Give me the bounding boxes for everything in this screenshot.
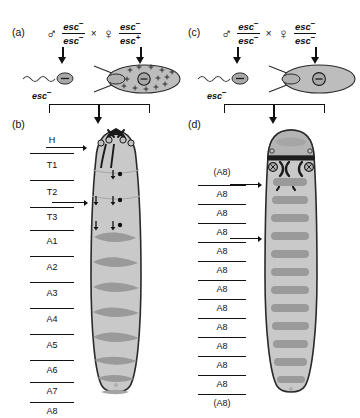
segment-label-d-2: A8 bbox=[198, 205, 246, 224]
cross-a: ♂ esc− esc− × ♀ esc− esc+ bbox=[46, 20, 141, 47]
segment-label-a3: A3 bbox=[30, 283, 74, 309]
larva-b bbox=[84, 126, 148, 398]
segment-label-a8: A8 bbox=[30, 403, 74, 418]
panel-letter-a: (a) bbox=[12, 26, 25, 38]
egg-a bbox=[92, 58, 184, 100]
male-symbol-a: ♂ bbox=[46, 26, 57, 41]
sperm-label-c: esc− bbox=[207, 88, 227, 101]
segment-label-d-9: A8 bbox=[198, 338, 246, 357]
segment-label-a4: A4 bbox=[30, 309, 74, 335]
segment-label-d-10: A8 bbox=[198, 357, 246, 376]
female-symbol-c: ♀ bbox=[278, 26, 289, 41]
segment-label-d-1: A8 bbox=[198, 186, 246, 205]
segment-label-a7: A7 bbox=[30, 383, 74, 403]
arrow-male-to-sperm-c bbox=[233, 47, 242, 64]
leader-line-d-top bbox=[230, 184, 258, 185]
cross-c: ♂ esc− esc− × ♀ esc− esc− bbox=[221, 20, 316, 47]
segment-label-t3: T3 bbox=[30, 208, 74, 231]
panel-letter-c: (c) bbox=[188, 26, 200, 38]
sperm-a bbox=[22, 68, 78, 88]
cross-operator-a: × bbox=[90, 28, 98, 39]
arrow-male-to-sperm-a bbox=[58, 47, 67, 64]
segment-label-a5: A5 bbox=[30, 335, 74, 361]
arrow-zygote-c bbox=[269, 104, 278, 124]
sperm-c bbox=[197, 68, 253, 88]
segment-label-d-6: A8 bbox=[198, 281, 246, 300]
cross-operator-c: × bbox=[265, 28, 273, 39]
segment-label-a2: A2 bbox=[30, 257, 74, 283]
segment-label-d-4: A8 bbox=[198, 243, 246, 262]
panel-letter-d: (d) bbox=[188, 118, 201, 130]
arrow-zygote-a bbox=[94, 104, 103, 124]
male-genotype-a: esc− esc− bbox=[62, 20, 85, 47]
segment-label-d-7: A8 bbox=[198, 300, 246, 319]
leader-line-t3-b bbox=[52, 202, 84, 203]
leader-line-d-mid bbox=[230, 238, 258, 239]
segment-label-d-11: A8 bbox=[198, 376, 246, 395]
segment-label-d-3: A8 bbox=[198, 224, 246, 243]
segment-label-t2: T2 bbox=[30, 181, 74, 208]
segment-label-a1: A1 bbox=[30, 231, 74, 257]
segment-labels-b: H T1 T2 T3 A1 A2 A3 A4 A5 A6 A7 A8 bbox=[30, 136, 74, 418]
egg-c bbox=[267, 58, 359, 100]
leader-line-h-b bbox=[46, 147, 83, 148]
segment-label-h: H bbox=[30, 136, 74, 154]
female-genotype-c: esc− esc− bbox=[294, 20, 317, 47]
panel-letter-b: (b) bbox=[12, 118, 25, 130]
segment-label-t1: T1 bbox=[30, 154, 74, 181]
male-genotype-c: esc− esc− bbox=[237, 20, 260, 47]
sperm-label-a: esc− bbox=[32, 88, 52, 101]
male-symbol-c: ♂ bbox=[221, 26, 232, 41]
female-genotype-a: esc− esc+ bbox=[119, 20, 142, 47]
segment-label-d-12: (A8) bbox=[198, 395, 246, 413]
female-symbol-a: ♀ bbox=[103, 26, 114, 41]
segment-label-a6: A6 bbox=[30, 361, 74, 383]
segment-labels-d: (A8) A8 A8 A8 A8 A8 A8 A8 A8 A8 A8 A8 (A… bbox=[198, 168, 246, 413]
larva-d bbox=[259, 126, 323, 398]
dark-band-d bbox=[267, 156, 315, 161]
segment-label-d-8: A8 bbox=[198, 319, 246, 338]
segment-label-d-5: A8 bbox=[198, 262, 246, 281]
